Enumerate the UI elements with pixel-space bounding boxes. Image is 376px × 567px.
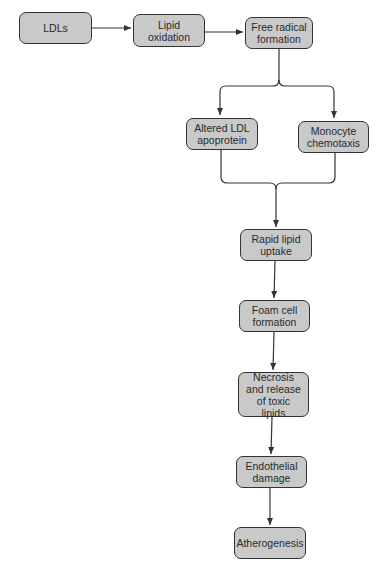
node-monocyte-chemotaxis: Monocyte chemotaxis: [298, 121, 369, 153]
node-altered-ldl-apoprotein: Altered LDL apoprotein: [186, 118, 258, 150]
node-ldls: LDLs: [19, 12, 92, 44]
node-necrosis-release-toxic-lipids: Necrosis and release of toxic lipids: [238, 372, 309, 417]
arrow-foam-to-necrosis: [273, 332, 274, 370]
node-atherogenesis: Atherogenesis: [234, 527, 306, 559]
arrow-altered-ldl-to-uptake: [221, 150, 276, 227]
node-foam-cell-formation: Foam cell formation: [239, 300, 310, 332]
node-free-radical-formation: Free radical formation: [245, 17, 313, 49]
arrow-radical-to-monocyte: [279, 80, 334, 118]
node-lipid-oxidation: Lipid oxidation: [133, 14, 205, 47]
connector-lines: [0, 0, 376, 567]
arrow-monocyte-to-uptake: [276, 153, 335, 189]
node-rapid-lipid-uptake: Rapid lipid uptake: [240, 229, 312, 261]
arrow-necrosis-to-endothelial: [271, 417, 272, 454]
node-endothelial-damage: Endothelial damage: [236, 456, 307, 488]
arrow-radical-to-altered-ldl: [220, 49, 279, 115]
arrow-uptake-to-foam: [274, 261, 275, 298]
